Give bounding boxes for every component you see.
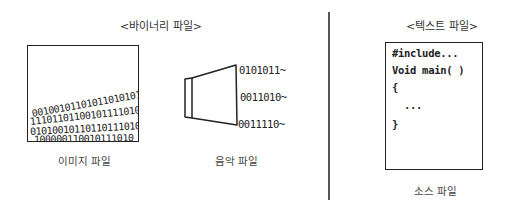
speaker-icon (180, 60, 240, 130)
code-line: ... (392, 99, 422, 111)
text-file-title: <텍스트 파일> (406, 17, 478, 33)
code-line: Void main( ) (392, 64, 464, 76)
audio-bits-line: 0101011~ (239, 64, 286, 76)
source-file-illustration: #include... Void main( ) { ... } (385, 42, 483, 170)
image-file-caption: 이미지 파일 (58, 153, 111, 168)
section-divider (328, 12, 330, 200)
code-line: } (392, 118, 398, 130)
source-file-caption: 소스 파일 (414, 183, 457, 198)
binary-file-title: <바이너리 파일> (120, 17, 202, 33)
audio-file-caption: 음악 파일 (215, 153, 258, 168)
image-file-illustration: 0010010110101101010111 11101101100101111… (27, 45, 139, 142)
code-line: #include... (392, 47, 458, 59)
audio-bits-line: 0011010~ (240, 91, 287, 103)
audio-bits-line: 0011110~ (238, 118, 285, 130)
code-line: { (392, 81, 398, 93)
binary-digits-row: 100000110010111010 (34, 132, 134, 142)
